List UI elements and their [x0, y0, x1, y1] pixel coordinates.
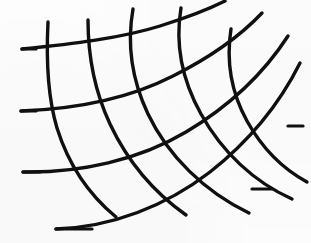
- web-grid-illustration: Curvilinear web grid line drawing A hand…: [0, 0, 311, 243]
- drawing-canvas: Curvilinear web grid line drawing A hand…: [0, 0, 311, 243]
